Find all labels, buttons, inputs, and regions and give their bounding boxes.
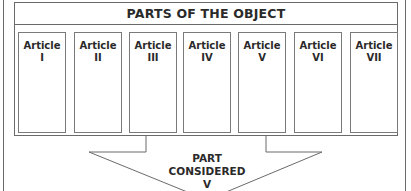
part-label-numeral: V [150,178,264,191]
part-label-line2: CONSIDERED [150,165,264,178]
part-considered-label: PART CONSIDERED V [150,152,264,191]
part-label-line1: PART [150,152,264,165]
